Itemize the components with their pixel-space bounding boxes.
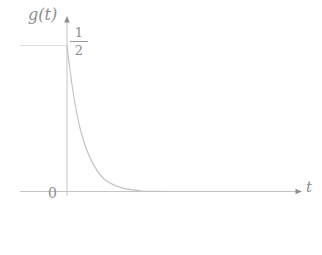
plot-canvas (0, 0, 322, 255)
x-axis-label: t (306, 180, 312, 195)
footer-watermark (123, 240, 203, 249)
fraction-denominator: 2 (68, 43, 90, 57)
origin-label: 0 (48, 186, 57, 200)
y-axis-arrow-icon (64, 16, 70, 23)
x-axis-arrow-icon (296, 189, 303, 195)
decay-curve (67, 45, 290, 192)
fraction-numerator: 1 (68, 26, 90, 40)
half-value-fraction: 1 2 (68, 26, 90, 57)
y-axis-label: g(t) (28, 7, 57, 23)
exponential-decay-figure: g(t) t 0 1 2 (0, 0, 322, 255)
fraction-bar (70, 41, 88, 42)
